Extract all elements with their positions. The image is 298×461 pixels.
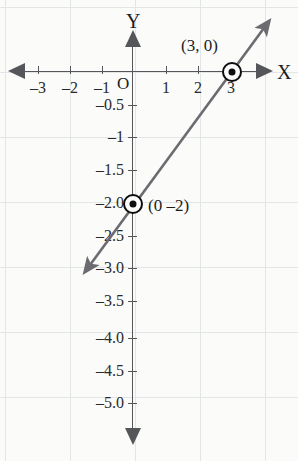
- point-marker-y-intercept[interactable]: [123, 194, 143, 214]
- point-label-y-intercept: (0 –2): [148, 197, 189, 214]
- point-marker-x-intercept[interactable]: [222, 62, 242, 82]
- point-label-x-intercept: (3, 0): [181, 37, 218, 54]
- plot-line: [0, 0, 298, 461]
- coordinate-plane-graph: Y X O –3 –2 –1 1 2 3 –0.5 –1 –1.5 –2.0 –…: [0, 0, 298, 461]
